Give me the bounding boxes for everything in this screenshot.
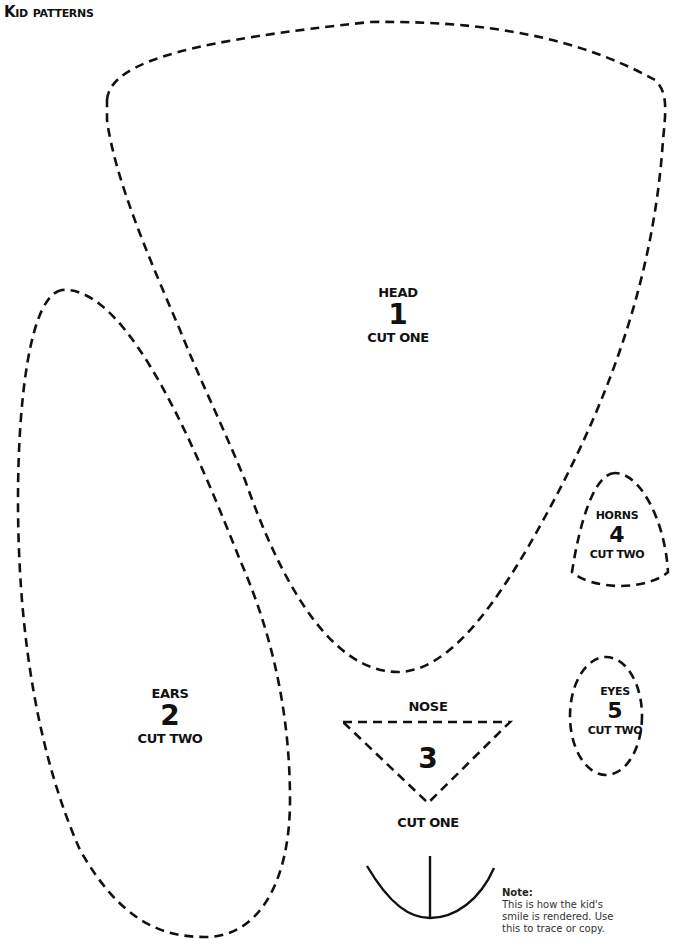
nose-number-label: 3 (418, 744, 437, 774)
piece-cut-instruction: CUT TWO (588, 724, 643, 737)
ears-outline (18, 290, 290, 937)
piece-number: 2 (138, 701, 203, 731)
note-text: This is how the kid's smile is rendered.… (502, 899, 622, 935)
piece-number: 3 (418, 744, 437, 774)
piece-name: HORNS (590, 509, 645, 522)
nose-cut-label: CUT ONE (397, 815, 459, 830)
piece-number: 1 (367, 300, 429, 330)
ears-label: EARS 2 CUT TWO (138, 686, 203, 746)
piece-number: 4 (590, 522, 645, 548)
smile-note: Note: This is how the kid's smile is ren… (502, 887, 622, 935)
piece-number: 5 (588, 698, 643, 724)
piece-cut-instruction: CUT ONE (397, 815, 459, 830)
smile-guide (367, 856, 494, 918)
piece-name: NOSE (409, 699, 448, 714)
piece-name: EYES (588, 685, 643, 698)
nose-name-label: NOSE (409, 699, 448, 714)
eyes-label: EYES 5 CUT TWO (588, 685, 643, 737)
piece-cut-instruction: CUT ONE (367, 330, 429, 345)
head-label: HEAD 1 CUT ONE (367, 285, 429, 345)
note-title: Note: (502, 887, 622, 899)
pattern-outlines (0, 0, 673, 951)
head-outline (107, 22, 665, 672)
piece-cut-instruction: CUT TWO (590, 548, 645, 561)
piece-cut-instruction: CUT TWO (138, 731, 203, 746)
horns-label: HORNS 4 CUT TWO (590, 509, 645, 561)
